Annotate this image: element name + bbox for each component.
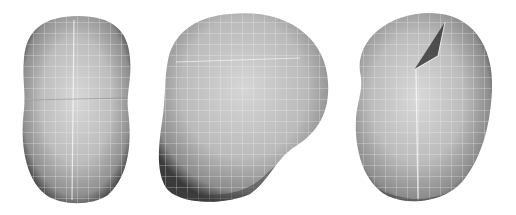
figure-canvas bbox=[0, 0, 516, 215]
mesh-figure bbox=[0, 0, 516, 215]
mesh-blob-three-quarter bbox=[340, 0, 516, 215]
mesh-blob-front bbox=[0, 0, 170, 215]
mesh-blob-side bbox=[150, 0, 340, 215]
